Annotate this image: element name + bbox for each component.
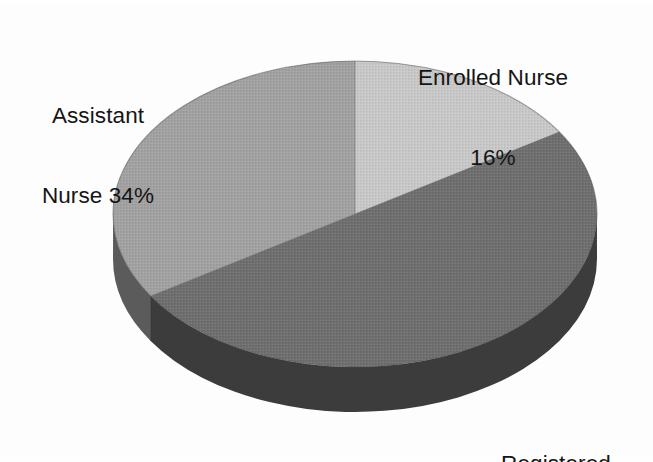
pie-label-enrolled-nurse-name: Enrolled Nurse — [398, 65, 588, 92]
scan-edge-top — [0, 0, 653, 5]
pie-chart-figure: Enrolled Nurse 16% Assistant Nurse 34% R… — [0, 0, 653, 462]
pie-label-registered-nurse: Registered Nurse 50% — [468, 398, 644, 462]
pie-label-assistant-nurse-value: Nurse 34% — [8, 183, 188, 210]
pie-label-assistant-nurse: Assistant Nurse 34% — [8, 50, 188, 262]
pie-label-enrolled-nurse: Enrolled Nurse 16% — [398, 12, 588, 224]
pie-label-assistant-nurse-name: Assistant — [8, 103, 188, 130]
pie-label-enrolled-nurse-value: 16% — [398, 145, 588, 172]
pie-label-registered-nurse-name: Registered — [468, 451, 644, 462]
